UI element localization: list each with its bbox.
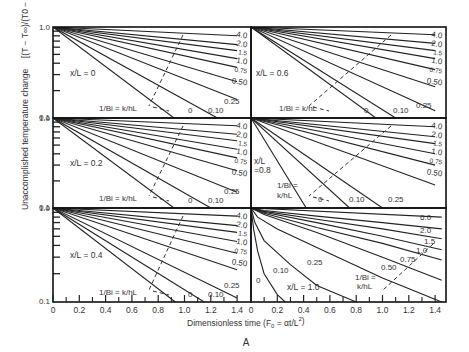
curve-label: 0.25: [307, 258, 323, 267]
x-tick-label: 1.4: [231, 305, 243, 315]
y-axis-title: Unaccomplished temperature change[(T − T…: [20, 0, 30, 210]
curve-label: 0.25: [224, 97, 240, 106]
bi-label: 1/Bi = k/hL: [99, 194, 138, 203]
curve-label: 0.10: [393, 106, 409, 115]
x-tick-label: 0.4: [298, 305, 310, 315]
y-tick-label: 0.1: [39, 297, 51, 306]
bi-pointer: [153, 197, 169, 201]
curve-label: 0.25: [416, 101, 432, 110]
x-tick-label: 0.2: [271, 305, 283, 315]
curve-label: 0.75: [400, 255, 416, 264]
curve-label: 0.50: [426, 167, 443, 178]
curve-label: 0: [256, 276, 261, 285]
panel-bottom-left: x/L = 0.41/Bi = k/hL4.02.01.51.00.750.50…: [39, 204, 251, 315]
panel-top-right: x/L = 0.61/Bi = k/hL4.02.01.51.00.750.50…: [251, 27, 446, 118]
curve-label: 0.50: [231, 76, 248, 87]
curve-2.0: [251, 27, 435, 43]
panel-middle-right: x/L=0.81/Bi =k/hL4.02.01.51.00.750.500.2…: [251, 118, 446, 208]
curve-label: 1.5: [433, 48, 443, 56]
x-tick-label: 0.6: [324, 305, 336, 315]
curve-label: 0.10: [273, 266, 289, 275]
curve-label: 0: [318, 195, 323, 204]
position-label: x/L = 0.2: [70, 158, 103, 168]
position-label: =0.8: [254, 165, 271, 175]
panel-middle-left: x/L = 0.21/Bi = k/hL4.02.01.51.00.750.50…: [39, 114, 251, 212]
bi-dashed-line: [149, 35, 183, 106]
x-tick-label: 1.0: [377, 305, 389, 315]
curve-label: 1.0: [431, 56, 444, 67]
bi-dashed-line: [309, 35, 391, 106]
curve-label: 0.75: [234, 247, 248, 256]
curve-label: 0.25: [224, 281, 240, 290]
x-tick-label: 0.8: [152, 305, 164, 315]
bi-dashed-line: [149, 126, 183, 196]
curve-label: 0.50: [381, 263, 397, 272]
curve-label: 1.5: [238, 139, 248, 147]
curve-label: 0.25: [388, 195, 404, 204]
curve-label: 0: [188, 196, 193, 205]
curve-1.0: [251, 118, 435, 154]
bi-label: 1/Bi = k/hL: [279, 104, 318, 113]
bi-label: 1/Bi =: [355, 273, 376, 282]
curve-0.25: [53, 27, 237, 99]
x-tick-label: 1.2: [205, 305, 217, 315]
position-label: x/L = 0.4: [70, 250, 103, 260]
curve-label: 0: [188, 106, 193, 115]
temperature-chart: x/L = 01/Bi = k/hL4.02.01.51.00.750.500.…: [0, 0, 469, 352]
figure-label: A: [243, 337, 250, 348]
curve-0.10: [251, 118, 350, 208]
curve-label: 0.50: [231, 257, 248, 268]
curve-2.0: [251, 118, 435, 137]
x-tick-label: 1.2: [403, 305, 415, 315]
y-axis-label: Unaccomplished temperature change: [20, 68, 30, 210]
curve-label: 0.50: [231, 167, 248, 178]
curve-label: 1.0: [416, 246, 428, 255]
curve-label: 1.5: [238, 229, 248, 237]
y-tick-label: 1.0: [39, 23, 51, 32]
curve-label: 0.75: [234, 66, 248, 75]
panel-bottom-right: x/L = 1.01/Bi =k/hL6.02.01.51.00.750.500…: [249, 208, 446, 315]
curve-label: 1.0: [236, 237, 249, 248]
panel-top-left: x/L = 01/Bi = k/hL4.02.01.51.00.750.500.…: [39, 23, 251, 122]
curve-label: 0.10: [208, 196, 224, 205]
bi-dashed-line: [149, 216, 183, 290]
curve-0.50: [251, 27, 435, 87]
curve-label: 0.75: [234, 157, 248, 166]
x-axis-title: Dimensionless time (F0 = αt/L2): [187, 316, 305, 329]
curve-label: 1.5: [433, 139, 443, 147]
x-tick-label: 1.4: [429, 305, 441, 315]
bi-label: 1/Bi = k/hL: [99, 104, 138, 113]
x-tick-label: 0: [51, 305, 56, 315]
curve-label: 0.25: [224, 187, 240, 196]
y-axis-formula: [(T − T∞)/(T0 − T∞)]: [20, 0, 30, 58]
curve-label: 0.75: [429, 66, 443, 75]
curve-1.0: [251, 27, 435, 59]
x-tick-label: 0.6: [126, 305, 138, 315]
position-label: x/L = 0: [70, 68, 96, 78]
curve-label: 1.0: [431, 147, 444, 158]
curve-label: 0.10: [349, 195, 365, 204]
curve-label: 6.0: [420, 213, 432, 222]
curve-label: 0.10: [208, 106, 224, 115]
y-tick-label: 1.0: [39, 114, 51, 123]
curve-label: 0: [364, 106, 369, 115]
x-tick-label: 0: [249, 305, 254, 315]
curve-label: 1.5: [238, 48, 248, 56]
curve-label: 1.0: [236, 56, 249, 67]
position-label: x/L = 1.0: [287, 282, 320, 292]
y-tick-label: 1.0: [39, 204, 51, 213]
position-label: x/L = 0.6: [256, 68, 289, 78]
x-tick-label: 0.2: [73, 305, 85, 315]
bi-label: k/hL: [357, 282, 373, 291]
bi-label: k/hL: [277, 191, 293, 200]
curve-0.50: [251, 118, 435, 185]
curve-label: 2.0: [420, 226, 432, 235]
curve-label: 1.0: [236, 147, 249, 158]
chart-figure: x/L = 01/Bi = k/hL4.02.01.51.00.750.500.…: [0, 0, 469, 352]
x-tick-label: 0.8: [350, 305, 362, 315]
x-tick-label: 1.0: [179, 305, 191, 315]
curve-label: 0: [188, 290, 193, 299]
x-tick-label: 0.4: [100, 305, 112, 315]
curve-2.0: [251, 208, 442, 229]
curve-label: 0.50: [426, 76, 443, 87]
